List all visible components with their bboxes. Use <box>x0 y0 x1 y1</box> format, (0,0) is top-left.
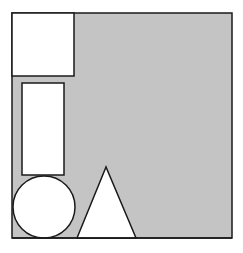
circle-shape <box>13 176 75 238</box>
tall-rectangle-shape <box>22 83 64 175</box>
top-square-shape <box>12 13 74 76</box>
shapes-diagram <box>0 0 243 253</box>
